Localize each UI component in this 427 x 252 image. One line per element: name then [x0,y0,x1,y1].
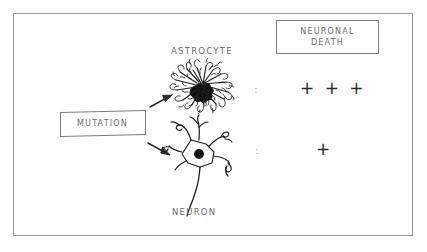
astrocyte-separator: : [254,83,258,96]
astrocyte-label: ASTROCYTE [171,46,233,57]
astrocyte-score: + + + [300,78,366,98]
neuron-separator: : [255,144,259,157]
neuron-label: NEURON [172,207,216,218]
neuronal-death-line-1: NEURONAL [300,27,354,36]
neuronal-death-line-2: DEATH [311,38,344,47]
mutation-box-label: MUTATION [77,118,128,129]
figure-canvas: ASTROCYTE NEURON MUTATION NEURONAL DEATH… [0,0,427,252]
neuron-score: + [316,139,333,159]
neuronal-death-box-label: NEURONAL DEATH [300,26,354,48]
mutation-box: MUTATION [60,110,146,137]
neuronal-death-box: NEURONAL DEATH [276,20,379,54]
